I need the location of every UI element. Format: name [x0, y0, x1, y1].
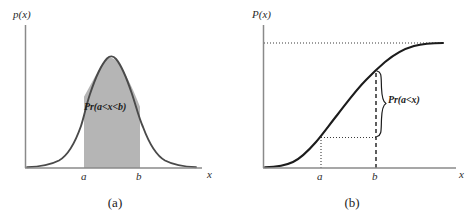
tick-label-a: a — [81, 170, 87, 182]
x-axis-label: x — [207, 168, 212, 180]
brace-probability-span — [377, 71, 386, 137]
shaded-probability-region — [84, 58, 140, 168]
pdf-plot — [0, 0, 238, 192]
y-axis-label: p(x) — [13, 8, 31, 20]
panel-caption: (a) — [90, 195, 140, 211]
panel-caption: (b) — [327, 195, 377, 211]
panel-cumulative-distribution: P(x) x a b Pr(a<x) (b) — [238, 0, 476, 221]
tick-label-a: a — [317, 170, 323, 182]
tick-label-b: b — [136, 170, 142, 182]
probability-annotation: Pr(a<x<b) — [84, 101, 126, 112]
figure-container: p(x) x a b Pr(a<x<b) (a) P(x) — [0, 0, 476, 221]
cumulative-curve — [265, 43, 443, 167]
tick-label-b: b — [372, 170, 378, 182]
x-axis-label: x — [459, 168, 464, 180]
panel-probability-density: p(x) x a b Pr(a<x<b) (a) — [0, 0, 238, 221]
probability-annotation: Pr(a<x) — [388, 94, 420, 105]
y-axis-label: P(x) — [252, 8, 271, 20]
cdf-plot — [238, 0, 476, 192]
